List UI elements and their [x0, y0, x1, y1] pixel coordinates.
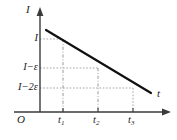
- x-tick-label-t1: t1: [58, 115, 64, 127]
- y-tick-label-I: I: [35, 33, 39, 44]
- x-tick-label-t3: t3: [128, 115, 134, 127]
- y-tick-text-2: I−2: [18, 81, 34, 92]
- x-axis-arrowhead: [162, 109, 171, 116]
- y-tick-label-I-minus-eps: I−ε: [23, 62, 38, 73]
- x-tick-label-t2: t2: [93, 115, 99, 127]
- y-tick-eps-1: ε: [34, 61, 38, 72]
- y-tick-eps-2: ε: [34, 81, 38, 92]
- figure-container: I t O I I−ε I−2ε t1 t2 t3: [0, 0, 177, 140]
- y-tick-label-I-minus-2eps: I−2ε: [18, 82, 38, 93]
- y-tick-text-0: I: [35, 32, 39, 43]
- x-tick-sub-1: 2: [96, 119, 100, 127]
- x-axis-label: t: [157, 88, 160, 99]
- y-axis-arrowhead: [37, 7, 44, 16]
- data-line-decreasing: [46, 30, 151, 93]
- x-tick-sub-0: 1: [61, 119, 65, 127]
- y-axis-label: I: [26, 4, 30, 15]
- y-tick-text-1: I−: [23, 61, 34, 72]
- x-tick-sub-2: 3: [131, 119, 135, 127]
- origin-label: O: [17, 114, 25, 125]
